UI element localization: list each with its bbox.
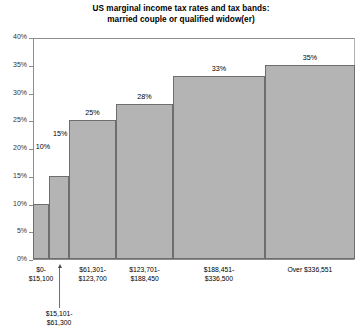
band-label-line2: $188,450 — [129, 275, 160, 284]
bar-value-label: 28% — [137, 92, 151, 101]
y-axis-tick-mark — [29, 260, 33, 261]
y-axis-tick-mark — [29, 94, 33, 95]
chart-title-line1: US marginal income tax rates and tax ban… — [93, 4, 270, 13]
callout-band-label: $15,101-$61,300 — [46, 310, 73, 327]
band-label-line1: $61,301- — [79, 266, 106, 273]
x-axis-band-label: $0-$15,100 — [29, 266, 54, 283]
bar-value-label: 25% — [85, 108, 99, 117]
x-axis-band-label: $61,301-$123,700 — [78, 266, 106, 283]
y-axis-tick-label: 5% — [17, 227, 27, 234]
x-axis-line — [33, 259, 355, 260]
band-label-line1: Over $336,551 — [287, 266, 332, 273]
y-axis-tick-label: 15% — [13, 172, 27, 179]
bar — [116, 104, 173, 259]
callout-leader-line — [59, 268, 60, 308]
y-axis-tick-mark — [29, 38, 33, 39]
x-axis-band-label: $123,701-$188,450 — [129, 266, 160, 283]
chart-title: US marginal income tax rates and tax ban… — [0, 4, 362, 25]
bar — [69, 120, 116, 259]
y-axis-tick-label: 0% — [17, 255, 27, 262]
band-label-line1: $123,701- — [129, 266, 160, 273]
band-label-line2: $336,500 — [204, 275, 235, 284]
bar-value-label: 33% — [212, 64, 226, 73]
chart-title-line2: married couple or qualified widow(er) — [0, 15, 362, 26]
bar-value-label: 10% — [36, 142, 50, 151]
y-axis-tick-label: 20% — [13, 144, 27, 151]
bar-value-label: 15% — [53, 129, 67, 138]
tax-rate-bar-chart: US marginal income tax rates and tax ban… — [0, 0, 362, 331]
y-axis-tick-label: 10% — [13, 200, 27, 207]
y-axis-tick-mark — [29, 149, 33, 150]
bar — [33, 204, 49, 260]
plot-top-border — [33, 38, 355, 39]
callout-arrowhead-icon — [58, 264, 62, 268]
callout-label-line2: $61,300 — [46, 319, 73, 328]
y-axis-tick-mark — [29, 66, 33, 67]
callout-label-line1: $15,101- — [46, 310, 73, 317]
x-axis-band-label: Over $336,551 — [287, 266, 332, 275]
band-label-line2: $15,100 — [29, 275, 54, 284]
y-axis-tick-label: 30% — [13, 89, 27, 96]
y-axis-tick-mark — [29, 121, 33, 122]
bar-value-label: 35% — [303, 53, 317, 62]
band-label-line2: $123,700 — [78, 275, 106, 284]
plot-area: 0%5%10%15%20%25%30%35%40% 10%15%25%28%33… — [33, 38, 355, 260]
x-axis-band-label: $188,451-$336,500 — [204, 266, 235, 283]
bar — [265, 65, 355, 259]
y-axis-tick-mark — [29, 177, 33, 178]
y-axis-tick-label: 35% — [13, 61, 27, 68]
band-label-line1: $0- — [36, 266, 46, 273]
bar — [49, 176, 69, 259]
bar — [173, 76, 265, 259]
band-label-line1: $188,451- — [204, 266, 235, 273]
y-axis-tick-label: 25% — [13, 116, 27, 123]
y-axis-tick-label: 40% — [13, 33, 27, 40]
